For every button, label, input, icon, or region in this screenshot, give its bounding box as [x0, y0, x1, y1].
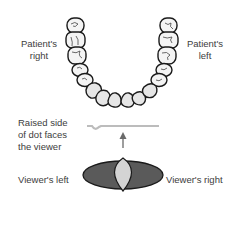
patient-right-label: Patient's right [14, 38, 64, 62]
patient-left-line-2: left [180, 50, 230, 62]
patient-left-label: Patient's left [180, 38, 230, 62]
raised-dot-illustration [83, 158, 163, 191]
film-edge-dot [87, 126, 159, 129]
patient-right-line-1: Patient's [14, 38, 64, 50]
raised-side-line-1: Raised side [18, 117, 88, 129]
raised-side-label: Raised side of dot faces the viewer [18, 117, 88, 153]
patient-left-line-1: Patient's [180, 38, 230, 50]
raised-side-line-2: of dot faces [18, 129, 88, 141]
raised-side-line-3: the viewer [18, 141, 88, 153]
viewer-left-label: Viewer's left [18, 174, 69, 186]
arrow-up-icon [120, 132, 127, 148]
anterior-teeth [86, 83, 157, 107]
patient-right-line-2: right [14, 50, 64, 62]
viewer-right-label: Viewer's right [166, 174, 223, 186]
